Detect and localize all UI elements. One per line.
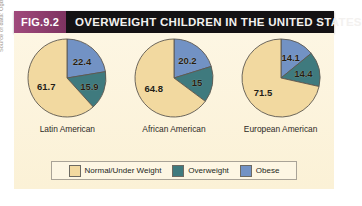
- legend-swatch: [172, 165, 184, 177]
- slice-value-label: 15.9: [80, 80, 99, 91]
- legend-item: Obese: [240, 165, 280, 177]
- slice-value-label: 20.2: [178, 54, 197, 65]
- figure-title: OVERWEIGHT CHILDREN IN THE UNITED STATES: [66, 11, 362, 33]
- pie-category-label: African American: [142, 124, 205, 134]
- pie-cell: 71.514.414.1European American: [231, 37, 331, 134]
- pie-chart: 71.514.414.1: [240, 37, 322, 119]
- legend-item: Normal/Under Weight: [69, 165, 162, 177]
- legend-swatch: [240, 165, 252, 177]
- figure-header: FIG.9.2 OVERWEIGHT CHILDREN IN THE UNITE…: [14, 11, 334, 33]
- pie-category-label: European American: [244, 124, 318, 134]
- legend-label: Obese: [256, 166, 280, 175]
- legend-label: Overweight: [188, 166, 228, 175]
- pie-chart: 64.81520.2: [133, 37, 215, 119]
- pie-cell: 61.715.922.4Latin American: [17, 37, 117, 134]
- slice-value-label: 15: [192, 76, 203, 87]
- pie-category-label: Latin American: [40, 124, 95, 134]
- slice-value-label: 14.4: [294, 67, 313, 78]
- slice-value-label: 64.8: [145, 83, 164, 94]
- pie-cell: 64.81520.2African American: [124, 37, 224, 134]
- pie-chart-row: 61.715.922.4Latin American64.81520.2Afri…: [14, 37, 334, 137]
- slice-value-label: 61.7: [37, 81, 56, 92]
- slice-value-label: 14.1: [281, 51, 300, 62]
- legend-swatch: [69, 165, 81, 177]
- figure-number-tag: FIG.9.2: [14, 11, 66, 33]
- chart-legend: Normal/Under WeightOverweightObese: [51, 161, 297, 180]
- legend-label: Normal/Under Weight: [85, 166, 162, 175]
- slice-value-label: 22.4: [73, 55, 92, 66]
- source-note: Source of data: Ogden et al., etc.: [0, 0, 4, 52]
- slice-value-label: 71.5: [254, 87, 273, 98]
- legend-item: Overweight: [172, 165, 228, 177]
- pie-chart: 61.715.922.4: [26, 37, 108, 119]
